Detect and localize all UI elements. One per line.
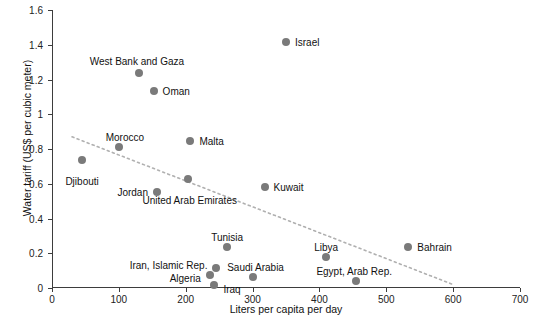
data-point-label: Tunisia — [211, 232, 243, 243]
data-point-label: Libya — [314, 242, 338, 253]
y-axis-line — [52, 10, 53, 288]
x-tick-mark — [52, 288, 53, 292]
data-point-label: United Arab Emirates — [142, 195, 237, 206]
data-point-label: Malta — [199, 136, 223, 147]
data-point-label: Saudi Arabia — [227, 262, 284, 273]
data-point[interactable] — [249, 273, 257, 281]
data-point-label: Djibouti — [65, 176, 98, 187]
x-tick-mark — [386, 288, 387, 292]
y-tick-mark — [48, 184, 52, 185]
data-point[interactable] — [404, 243, 412, 251]
data-point-label: Oman — [163, 85, 190, 96]
data-point[interactable] — [153, 188, 161, 196]
y-tick-label: 1 — [37, 109, 43, 120]
data-point[interactable] — [322, 253, 330, 261]
x-axis-line — [52, 287, 520, 288]
y-tick-label: 0 — [37, 283, 43, 294]
data-point-label: Bahrain — [417, 242, 451, 253]
data-point[interactable] — [206, 271, 214, 279]
scatter-chart: 0100200300400500600700 00.20.40.60.811.2… — [0, 0, 537, 326]
data-point[interactable] — [261, 183, 269, 191]
x-tick-mark — [253, 288, 254, 292]
y-tick-mark — [48, 114, 52, 115]
data-point[interactable] — [135, 69, 143, 77]
y-tick-mark — [48, 149, 52, 150]
data-point[interactable] — [352, 277, 360, 285]
data-point[interactable] — [210, 281, 218, 289]
x-tick-mark — [119, 288, 120, 292]
y-tick-mark — [48, 288, 52, 289]
data-point-label: Iran, Islamic Rep. — [130, 260, 208, 271]
data-point-label: Morocco — [106, 132, 144, 143]
y-tick-mark — [48, 45, 52, 46]
y-tick-mark — [48, 219, 52, 220]
data-point[interactable] — [78, 156, 86, 164]
plot-area: 0100200300400500600700 00.20.40.60.811.2… — [52, 10, 520, 288]
data-point[interactable] — [223, 243, 231, 251]
data-point-label: Algeria — [170, 272, 201, 283]
data-point-label: Egypt, Arab Rep. — [316, 266, 392, 277]
data-point[interactable] — [150, 87, 158, 95]
x-tick-mark — [520, 288, 521, 292]
data-point-label: Iraq — [223, 283, 240, 294]
data-point[interactable] — [212, 264, 220, 272]
y-tick-mark — [48, 253, 52, 254]
x-tick-mark — [453, 288, 454, 292]
data-point[interactable] — [186, 137, 194, 145]
y-tick-mark — [48, 80, 52, 81]
data-point-label: Israel — [295, 37, 319, 48]
y-axis-title: Water tariff (US$ per cubic meter) — [21, 3, 33, 273]
data-point[interactable] — [115, 143, 123, 151]
data-point[interactable] — [282, 38, 290, 46]
data-point-label: West Bank and Gaza — [90, 56, 184, 67]
x-axis-title: Liters per capita per day — [52, 303, 520, 315]
data-point[interactable] — [184, 175, 192, 183]
x-tick-mark — [319, 288, 320, 292]
y-tick-mark — [48, 10, 52, 11]
x-tick-mark — [186, 288, 187, 292]
data-point-label: Kuwait — [274, 182, 304, 193]
